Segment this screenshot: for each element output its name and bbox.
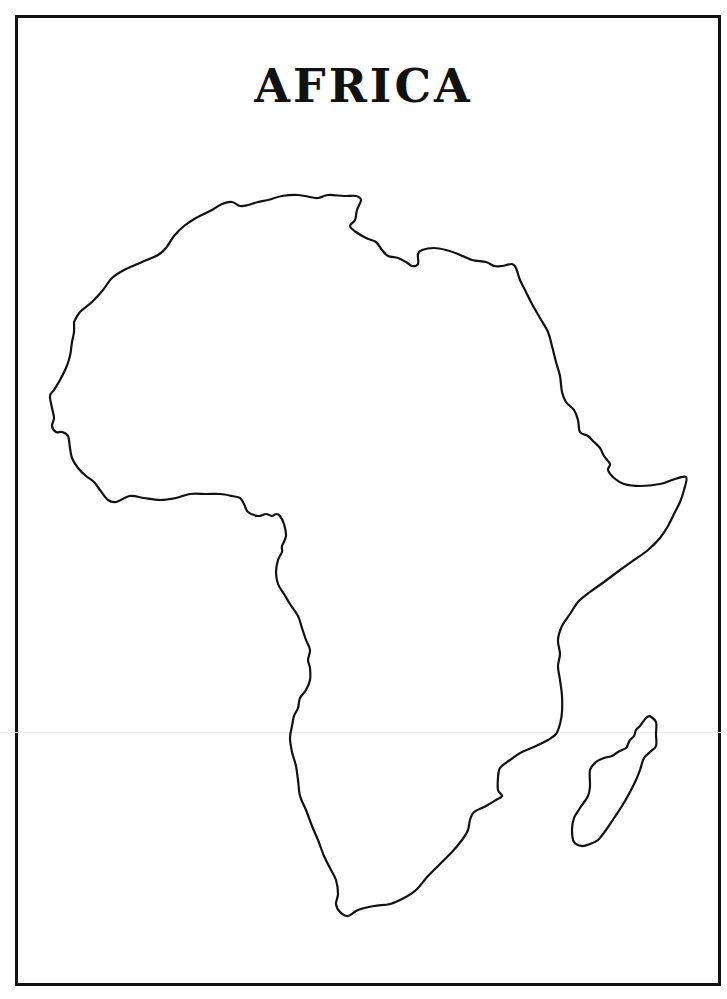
africa-mainland-outline [50,195,687,916]
madagascar-outline [572,716,656,846]
africa-outline-map [0,0,727,999]
